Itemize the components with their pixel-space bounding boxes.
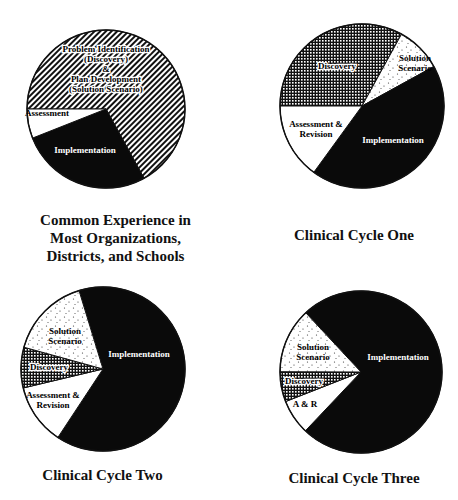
pie-chart-1: Problem Identification(Discovery)&Plan D… [25,30,185,188]
caption-line: Clinical Cycle One [250,226,458,244]
slice-label: & [102,64,110,74]
chart-caption-1: Common Experience inMost Organizations,D… [3,211,228,265]
slice-label: Solution [297,342,329,352]
slice-label: Scenario [296,352,330,362]
slice-label: Scenario [48,336,82,346]
slice-label: Revision [299,129,332,139]
slice-label: Discovery [285,376,323,386]
slice-label: (Discovery) [84,54,128,64]
caption-line: Clinical Cycle Three [250,469,458,487]
slice-label: Assessment & [26,390,80,400]
slice-label: Implementation [362,135,424,145]
slice-label: Implementation [54,145,116,155]
chart-caption-4: Clinical Cycle Three [250,469,458,487]
slice-label: Discovery [318,61,356,71]
caption-line: Common Experience in [3,211,228,229]
pie-chart-2: DiscoverySolutionScenarioImplementationA… [280,24,444,188]
caption-line: Districts, and Schools [3,247,228,265]
pie-chart-4: ImplementationA & RDiscoverySolutionScen… [280,291,442,453]
slice-label: (Solution Scenario) [69,84,143,94]
slice-label: Plan Development [71,74,141,84]
pie-chart-3: ImplementationAssessment &RevisionDiscov… [21,287,185,451]
slice-label: Revision [36,400,69,410]
caption-line: Clinical Cycle Two [0,466,205,484]
slice-label: Problem Identification [62,44,149,54]
slice-label: A & R [293,399,318,409]
slice-label: Solution [49,326,81,336]
slice-label: Discovery [30,362,68,372]
slice-label: Assessment [25,108,69,118]
slice-label: Assessment & [289,119,343,129]
slice-label: Scenario [398,63,432,73]
slice-label: Implementation [367,352,429,362]
slice-label: Implementation [108,349,170,359]
chart-caption-3: Clinical Cycle Two [0,466,205,484]
figure: Problem Identification(Discovery)&Plan D… [0,0,458,500]
chart-caption-2: Clinical Cycle One [250,226,458,244]
caption-line: Most Organizations, [3,229,228,247]
slice-label: Solution [399,53,431,63]
